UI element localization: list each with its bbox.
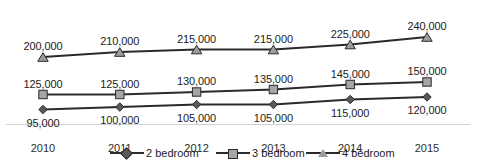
legend-key-triangle-icon xyxy=(306,147,340,159)
data-point-marker xyxy=(116,103,124,111)
legend-item-4-bedroom[interactable]: 4 bedroom xyxy=(306,146,395,160)
line-chart: 95,000100,000105,000105,000115,000120,00… xyxy=(0,0,477,161)
data-point-marker xyxy=(423,78,431,86)
data-point-marker xyxy=(346,80,354,88)
data-point-label: 130,000 xyxy=(175,75,219,87)
data-point-label: 150,000 xyxy=(405,65,449,77)
x-axis-line xyxy=(6,124,470,125)
data-point-label: 215,000 xyxy=(175,33,219,45)
data-point-label: 200,000 xyxy=(21,40,65,52)
data-point-label: 240,000 xyxy=(405,20,449,32)
data-point-marker xyxy=(116,90,124,98)
data-point-label: 215,000 xyxy=(251,33,295,45)
data-point-marker xyxy=(192,88,200,96)
legend-item-2-bedroom[interactable]: 2 bedroom xyxy=(110,146,199,160)
data-point-label: 135,000 xyxy=(251,73,295,85)
data-point-label: 115,000 xyxy=(328,107,372,119)
legend-label: 4 bedroom xyxy=(342,147,395,159)
data-point-label: 120,000 xyxy=(405,104,449,116)
legend-label: 3 bedroom xyxy=(252,147,305,159)
data-point-marker xyxy=(346,95,354,103)
data-point-marker xyxy=(39,90,47,98)
legend-key-square-icon xyxy=(216,147,250,159)
data-point-label: 100,000 xyxy=(98,114,142,126)
data-point-marker xyxy=(269,100,277,108)
data-point-marker xyxy=(192,100,200,108)
data-point-marker xyxy=(269,85,277,93)
data-point-label: 125,000 xyxy=(21,78,65,90)
data-point-label: 225,000 xyxy=(328,28,372,40)
data-point-label: 145,000 xyxy=(328,68,372,80)
legend-label: 2 bedroom xyxy=(146,147,199,159)
data-point-label: 210,000 xyxy=(98,35,142,47)
x-axis-tick-label: 2010 xyxy=(21,142,65,154)
data-point-label: 125,000 xyxy=(98,78,142,90)
legend-item-3-bedroom[interactable]: 3 bedroom xyxy=(216,146,305,160)
x-axis-tick-label: 2015 xyxy=(405,142,449,154)
data-point-label: 95,000 xyxy=(21,117,65,129)
data-point-marker xyxy=(39,105,47,113)
legend-key-diamond-icon xyxy=(110,147,144,159)
data-point-label: 105,000 xyxy=(251,112,295,124)
data-point-marker xyxy=(423,93,431,101)
data-point-label: 105,000 xyxy=(175,112,219,124)
